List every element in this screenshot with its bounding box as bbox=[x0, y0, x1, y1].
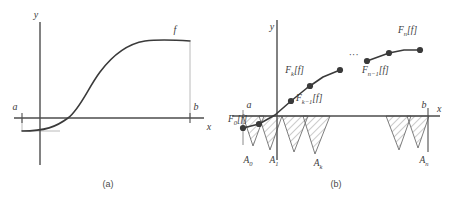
label-Fk: Fk[f] bbox=[284, 65, 304, 77]
label-An: An bbox=[418, 155, 428, 167]
label-Fk-minus-1: Fk−1[f] bbox=[295, 93, 323, 105]
label-Fn-minus-1-tail: [f] bbox=[379, 65, 389, 75]
x-axis-label-b: x bbox=[436, 103, 442, 114]
label-F0: F0[f] bbox=[227, 114, 247, 126]
tick-label-a: a bbox=[13, 101, 18, 112]
caption-a: (a) bbox=[103, 179, 114, 189]
caption-b: (b) bbox=[331, 179, 342, 189]
label-Fn-tail: [f] bbox=[407, 25, 417, 35]
area-A1 bbox=[259, 116, 282, 150]
y-axis-label-b: y bbox=[269, 21, 275, 32]
ellipsis-label: ··· bbox=[349, 50, 359, 60]
marker-F1 bbox=[256, 121, 262, 127]
label-Ak-sub: k bbox=[319, 163, 322, 170]
tick-label-b: b bbox=[194, 101, 199, 112]
label-An-sub: n bbox=[425, 160, 428, 167]
label-Fk-tail: [f] bbox=[294, 65, 304, 75]
label-A0: A0 bbox=[242, 155, 253, 167]
marker-Fk-plus-1 bbox=[337, 67, 343, 73]
polyline-right bbox=[367, 50, 420, 61]
tick-label-a-b: a bbox=[247, 99, 252, 110]
panel-a: y x a b f (a) bbox=[13, 9, 212, 189]
x-axis-label-a: x bbox=[206, 121, 212, 132]
label-A0-sub: 0 bbox=[249, 160, 253, 167]
label-Fn-minus-1: Fn−1[f] bbox=[361, 65, 389, 77]
marker-Fn-minus-1 bbox=[386, 50, 392, 56]
label-Fn: Fn[f] bbox=[397, 25, 417, 37]
label-Fk-minus-1-sub: k−1 bbox=[302, 98, 313, 105]
label-Fn-minus-1-sub: n−1 bbox=[368, 70, 379, 77]
panel-b: ··· y x a b F0[f] Fk−1[f] Fk[f] Fn−1[f] … bbox=[227, 20, 442, 189]
label-F0-tail: [f] bbox=[237, 114, 247, 124]
figure-svg: y x a b f (a) bbox=[0, 0, 454, 200]
hatched-areas bbox=[243, 116, 429, 154]
marker-Fn-minus-2 bbox=[364, 58, 370, 64]
label-Fk-minus-1-tail: [f] bbox=[312, 93, 322, 103]
area-A2 bbox=[282, 116, 308, 152]
marker-Fk-minus-1 bbox=[288, 98, 294, 104]
marker-Fn bbox=[417, 47, 423, 53]
curve-label-f: f bbox=[174, 24, 178, 35]
figure-container: y x a b f (a) bbox=[0, 0, 454, 200]
marker-F0 bbox=[240, 125, 246, 131]
area-An-prev bbox=[386, 116, 411, 150]
area-An bbox=[407, 116, 429, 148]
label-Ak: Ak bbox=[313, 158, 323, 170]
tick-label-b-b: b bbox=[422, 99, 427, 110]
marker-Fk bbox=[307, 83, 313, 89]
area-Ak bbox=[303, 116, 330, 154]
y-axis-label-a: y bbox=[33, 9, 39, 20]
label-A1-sub: 1 bbox=[275, 160, 278, 167]
